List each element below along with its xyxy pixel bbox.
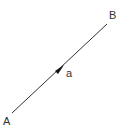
point-label-b-end: B	[109, 9, 116, 21]
arrowhead-icon	[55, 65, 64, 74]
vector-name-label: a	[66, 67, 73, 79]
vector-diagram: A B a	[0, 0, 122, 132]
point-label-a-start: A	[3, 115, 11, 127]
